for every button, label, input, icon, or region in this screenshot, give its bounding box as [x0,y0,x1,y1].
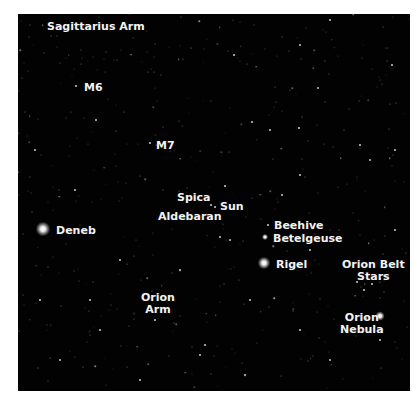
faint-star [47,330,48,331]
faint-star [331,39,333,41]
star [39,299,41,301]
faint-star [280,376,281,377]
faint-star [139,246,140,247]
faint-star [105,52,106,53]
faint-star [31,192,32,193]
faint-star [18,171,20,173]
faint-star [329,74,330,75]
faint-star [389,128,390,129]
faint-star [47,266,48,267]
faint-star [105,385,106,386]
faint-star [222,228,223,229]
faint-star [60,63,61,64]
faint-star [127,144,128,145]
faint-star [52,257,53,258]
faint-star [110,305,111,306]
faint-star [338,55,339,56]
faint-star [60,82,61,83]
faint-star [305,177,306,178]
faint-star [359,235,360,236]
faint-star [38,119,39,120]
star-field: Sagittarius ArmM6M7SpicaSunAldebaranDene… [18,14,410,391]
star [219,236,221,238]
faint-star [42,24,44,26]
faint-star [105,161,106,162]
faint-star [19,331,20,332]
faint-star [206,321,207,322]
faint-star [40,275,41,276]
faint-star [406,253,407,254]
faint-star [231,348,232,349]
star [317,87,319,89]
faint-star [388,148,389,149]
faint-star [293,310,294,311]
faint-star [118,201,119,202]
faint-star [69,145,70,146]
faint-star [215,314,217,316]
faint-star [317,311,318,312]
faint-star [151,276,152,277]
faint-star [169,355,170,356]
faint-star [386,47,387,48]
faint-star [161,285,163,287]
faint-star [124,111,125,112]
star [210,204,212,206]
faint-star [93,169,94,170]
faint-star [328,306,329,307]
faint-star [255,66,257,68]
faint-star [231,269,232,270]
star [298,127,300,129]
star [251,121,253,123]
faint-star [153,255,154,256]
star [394,229,396,231]
faint-star [241,123,243,125]
faint-star [378,77,379,78]
faint-star [313,67,315,69]
star [299,329,301,331]
faint-star [403,300,404,301]
faint-star [40,155,41,156]
faint-star [301,58,302,59]
faint-star [383,291,384,292]
faint-star [89,335,90,336]
faint-star [180,316,181,317]
faint-star [179,121,180,122]
faint-star [355,295,357,297]
faint-star [50,357,51,358]
faint-star [234,353,235,354]
faint-star [141,62,142,63]
faint-star [68,54,70,56]
faint-star [108,99,109,100]
star [391,64,393,66]
faint-star [120,50,121,51]
faint-star [56,35,57,36]
faint-star [25,111,26,112]
faint-star [95,365,97,367]
faint-star [154,135,155,136]
faint-star [406,326,407,327]
faint-star [203,48,204,49]
faint-star [384,206,386,208]
faint-star [23,63,24,64]
faint-star [87,60,89,62]
faint-star [277,199,278,200]
star [369,159,371,161]
faint-star [256,139,258,141]
faint-star [27,136,28,137]
faint-star [340,157,342,159]
faint-star [114,154,115,155]
faint-star [104,71,105,72]
faint-star [37,247,39,249]
faint-star [386,60,387,61]
faint-star [82,366,83,367]
faint-star [306,274,307,275]
faint-star [318,337,319,338]
faint-star [244,304,245,305]
faint-star [397,348,398,349]
rigel-star [258,257,270,269]
faint-star [307,141,308,142]
faint-star [190,47,191,48]
beehive-label: Beehive [274,220,324,232]
faint-star [27,71,28,72]
faint-star [322,30,323,31]
